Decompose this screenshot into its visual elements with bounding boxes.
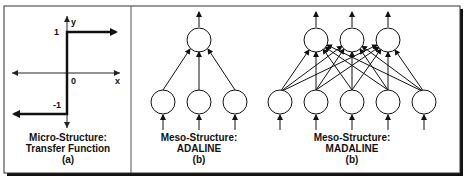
y-label: y xyxy=(71,17,76,27)
panel-b2-tag: (b) xyxy=(346,154,359,165)
neg-level-label: -1 xyxy=(53,100,61,110)
madaline-input-node xyxy=(340,90,364,114)
adaline-output-node xyxy=(187,28,211,52)
panel-a-title: Micro-Structure: xyxy=(29,132,107,143)
panel-a-tag: (a) xyxy=(62,154,74,165)
madaline-input-node xyxy=(376,90,400,114)
origin-label: 0 xyxy=(71,76,76,86)
x-label: x xyxy=(115,76,120,86)
panel-a-subtitle: Transfer Function xyxy=(26,143,110,154)
panel-b2-subtitle: MADALINE xyxy=(326,143,379,154)
madaline-input-node xyxy=(412,90,436,114)
pos-level-label: 1 xyxy=(54,27,59,37)
panel-b2-title: Meso-Structure: xyxy=(314,132,391,143)
panel-b1-tag: (b) xyxy=(193,154,206,165)
adaline-input-node xyxy=(151,90,175,114)
panel-b1-subtitle: ADALINE xyxy=(177,143,222,154)
madaline-input-node xyxy=(268,90,292,114)
panel-b1-title: Meso-Structure: xyxy=(161,132,238,143)
adaline-input-node xyxy=(187,90,211,114)
madaline-output-node xyxy=(304,28,328,52)
madaline-output-node xyxy=(340,28,364,52)
madaline-input-node xyxy=(304,90,328,114)
madaline-output-node xyxy=(376,28,400,52)
figure: y x 0 1 -1 Micro-Structure: Transfer Fun… xyxy=(0,0,467,182)
adaline-input-node xyxy=(223,90,247,114)
